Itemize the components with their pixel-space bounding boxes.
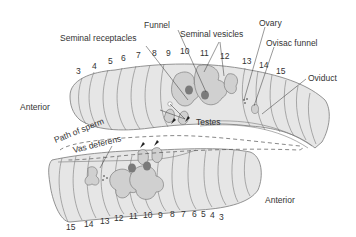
bottom-segment-number: 13 bbox=[100, 217, 109, 226]
label-testes: Testes bbox=[196, 118, 221, 127]
bottom-segment-number: 8 bbox=[170, 210, 175, 219]
top-segment-number: 14 bbox=[259, 61, 268, 70]
top-segment-number: 4 bbox=[92, 62, 97, 71]
diagram-artwork bbox=[0, 0, 356, 237]
label-ovisac-funnel: Ovisac funnel bbox=[266, 39, 318, 48]
bottom-segment-number: 11 bbox=[129, 212, 138, 221]
top-segment-number: 8 bbox=[152, 49, 157, 58]
bottom-segment-number: 9 bbox=[158, 211, 163, 220]
label-seminal-vesicles: Seminal vesicles bbox=[180, 30, 243, 39]
top-segment-number: 7 bbox=[136, 51, 141, 60]
bottom-segment-number: 14 bbox=[84, 220, 93, 229]
earthworm-reproduction-diagram: Funnel Seminal receptacles Seminal vesic… bbox=[0, 0, 356, 237]
label-seminal-receptacles: Seminal receptacles bbox=[60, 34, 137, 43]
bottom-segment-number: 3 bbox=[219, 213, 224, 222]
bottom-segment-number: 5 bbox=[201, 210, 206, 219]
top-segment-number: 3 bbox=[76, 67, 81, 76]
top-segment-number: 13 bbox=[242, 57, 251, 66]
top-segment-number: 9 bbox=[166, 49, 171, 58]
top-segment-number: 12 bbox=[220, 52, 229, 61]
bottom-segment-number: 15 bbox=[66, 223, 75, 232]
bottom-segment-number: 7 bbox=[181, 210, 186, 219]
top-segment-number: 15 bbox=[276, 67, 285, 76]
top-segment-number: 5 bbox=[108, 57, 113, 66]
label-oviduct: Oviduct bbox=[308, 74, 337, 83]
bottom-segment-number: 10 bbox=[143, 211, 152, 220]
label-funnel: Funnel bbox=[144, 21, 170, 30]
label-ovary: Ovary bbox=[259, 19, 282, 28]
top-segment-number: 6 bbox=[121, 54, 126, 63]
bottom-segment-number: 6 bbox=[192, 210, 197, 219]
bottom-segment-number: 12 bbox=[114, 214, 123, 223]
bottom-worm bbox=[49, 148, 262, 222]
label-anterior-top: Anterior bbox=[20, 103, 50, 112]
top-segment-number: 11 bbox=[200, 49, 209, 58]
top-segment-number: 10 bbox=[180, 47, 189, 56]
bottom-segment-number: 4 bbox=[210, 211, 215, 220]
label-anterior-bottom: Anterior bbox=[265, 196, 295, 205]
